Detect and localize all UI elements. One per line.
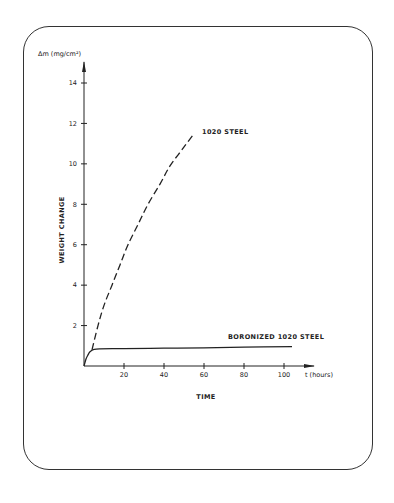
y-unit-label: Δm (mg/cm²) — [38, 50, 81, 58]
series-boronized-1020-steel-line — [84, 347, 292, 366]
y-tick-label: 2 — [73, 322, 77, 330]
y-axis-arrow-icon — [82, 61, 86, 72]
annotation-boronized-1020-steel: BORONIZED 1020 STEEL — [228, 333, 324, 341]
x-tick-label: 100 — [278, 371, 290, 379]
x-unit-label: t (hours) — [305, 371, 333, 379]
series-layer — [84, 134, 292, 366]
x-axis-title: TIME — [196, 393, 215, 401]
x-tick-label: 60 — [200, 371, 208, 379]
axes: 246810121420406080100 — [69, 61, 315, 379]
y-tick-label: 6 — [73, 241, 77, 249]
y-axis-title: WEIGHT CHANGE — [58, 196, 66, 263]
series-1020-steel-line — [92, 134, 194, 350]
y-tick-label: 14 — [69, 79, 77, 87]
chart: 246810121420406080100 1020 STEELBORONIZE… — [0, 0, 394, 503]
y-tick-label: 8 — [73, 201, 77, 209]
y-tick-label: 12 — [69, 120, 77, 128]
x-tick-label: 20 — [120, 371, 128, 379]
annotation-1020-steel: 1020 STEEL — [202, 128, 249, 136]
y-tick-label: 10 — [69, 160, 77, 168]
x-axis-arrow-icon — [304, 364, 315, 368]
x-tick-label: 40 — [160, 371, 168, 379]
y-tick-label: 4 — [73, 281, 77, 289]
x-tick-label: 80 — [240, 371, 248, 379]
